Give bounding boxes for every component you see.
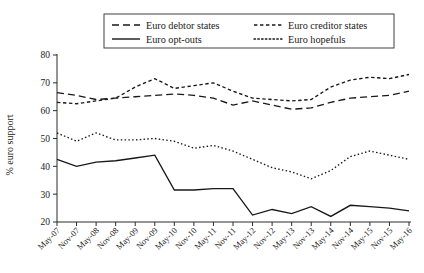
chart-container: % euro support 20304050607080 May-07Nov-…	[0, 0, 424, 273]
legend-label: Euro hopefuls	[288, 34, 345, 45]
x-axis-tick-label: May-11	[192, 225, 218, 251]
y-axis-label: % euro support	[4, 114, 15, 175]
series-line-euro-debtor-states	[57, 91, 409, 109]
y-axis-tick-label: 30	[41, 190, 51, 200]
y-axis-tick-label: 20	[41, 217, 51, 227]
legend-label: Euro debtor states	[146, 20, 220, 31]
x-axis-tick-label: May-08	[75, 225, 101, 251]
series-line-euro-hopefuls	[57, 133, 409, 179]
y-axis-tick-label: 70	[41, 78, 51, 88]
chart-legend: Euro debtor statesEuro creditor statesEu…	[104, 14, 394, 48]
x-axis-tick-label: May-10	[153, 225, 179, 251]
x-axis-tick-label: May-09	[114, 225, 140, 251]
legend-label: Euro creditor states	[288, 20, 367, 31]
x-axis-tick-label: May-12	[231, 225, 257, 251]
line-chart: % euro support 20304050607080 May-07Nov-…	[0, 0, 424, 273]
y-axis-tick-label: 60	[41, 106, 51, 116]
data-series-group	[57, 74, 409, 216]
x-axis-tick-label: May-15	[348, 225, 374, 251]
x-axis-tick-label: May-13	[270, 225, 296, 251]
x-axis: May-07Nov-07May-08Nov-08May-09Nov-09May-…	[36, 222, 415, 252]
y-axis: 20304050607080	[41, 50, 58, 227]
x-axis-tick-label: May-16	[388, 225, 415, 252]
y-axis-tick-label: 80	[41, 50, 51, 60]
y-axis-tick-label: 50	[41, 134, 51, 144]
series-line-euro-creditor-states	[57, 74, 409, 103]
y-axis-title: % euro support	[4, 114, 15, 175]
series-line-euro-opt-outs	[57, 155, 409, 216]
y-axis-tick-label: 40	[41, 162, 51, 172]
legend-label: Euro opt-outs	[146, 34, 202, 45]
